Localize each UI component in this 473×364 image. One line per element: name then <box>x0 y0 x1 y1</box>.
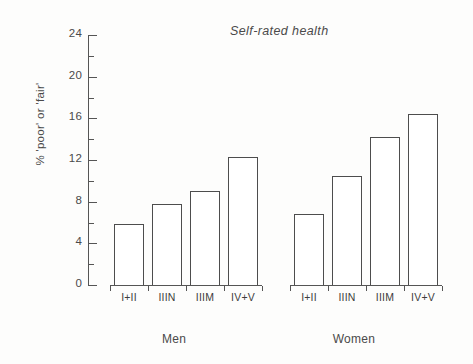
x-tick-label: I+II <box>110 291 148 303</box>
y-tick-label: 20 <box>52 69 82 81</box>
bar <box>228 157 258 285</box>
x-tick-mark <box>148 286 149 291</box>
y-tick-minor <box>89 56 94 57</box>
chart-title: Self-rated health <box>230 24 329 38</box>
x-tick-label: IV+V <box>404 291 442 303</box>
group-label-women: Women <box>304 332 404 346</box>
y-tick-label: 16 <box>52 110 82 122</box>
bar <box>190 191 220 285</box>
x-tick-mark <box>404 286 405 291</box>
bar <box>332 176 362 285</box>
x-tick-mark <box>328 286 329 291</box>
x-tick-mark <box>290 286 291 291</box>
bar <box>370 137 400 285</box>
bar <box>408 114 438 285</box>
x-tick-mark <box>110 286 111 291</box>
x-tick-mark <box>224 286 225 291</box>
x-tick-label: IIIM <box>186 291 224 303</box>
y-tick-major <box>89 160 97 161</box>
y-tick-label: 4 <box>52 235 82 247</box>
y-tick-minor <box>89 98 94 99</box>
x-tick-mark <box>366 286 367 291</box>
x-tick-label: IV+V <box>224 291 262 303</box>
y-tick-major <box>89 118 97 119</box>
y-tick-label: 12 <box>52 152 82 164</box>
x-tick-mark <box>262 286 263 291</box>
y-tick-label: 24 <box>52 27 82 39</box>
y-tick-major <box>89 35 97 36</box>
chart-figure: Self-rated health % 'poor' or 'fair' 048… <box>0 0 473 364</box>
y-tick-minor <box>89 139 94 140</box>
x-tick-mark <box>186 286 187 291</box>
y-axis-label: % 'poor' or 'fair' <box>34 44 46 204</box>
x-tick-label: IIIN <box>148 291 186 303</box>
y-tick-major <box>89 77 97 78</box>
bar <box>294 214 324 285</box>
bar <box>152 204 182 285</box>
x-tick-mark <box>442 286 443 291</box>
y-tick-major <box>89 202 97 203</box>
x-tick-label: I+II <box>290 291 328 303</box>
y-tick-minor <box>89 223 94 224</box>
x-tick-label: IIIM <box>366 291 404 303</box>
x-tick-label: IIIN <box>328 291 366 303</box>
y-tick-major <box>89 243 97 244</box>
y-tick-minor <box>89 181 94 182</box>
y-tick-label: 0 <box>52 277 82 289</box>
y-tick-label: 8 <box>52 194 82 206</box>
y-tick-major <box>89 285 97 286</box>
y-tick-minor <box>89 264 94 265</box>
bar <box>114 224 144 285</box>
group-label-men: Men <box>124 332 224 346</box>
